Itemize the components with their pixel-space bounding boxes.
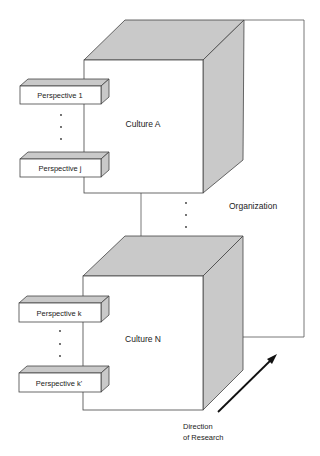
cube-a-label: Culture A	[126, 119, 161, 129]
perspective-k-label: Perspective k	[36, 309, 81, 318]
cube-ellipsis	[185, 202, 187, 228]
perspective-ellipsis-top	[60, 114, 62, 140]
direction-label-line1: Direction	[183, 422, 213, 431]
perspective-j-label: Perspective j	[39, 164, 82, 173]
organization-label: Organization	[229, 201, 277, 211]
perspective-1-label: Perspective 1	[37, 91, 82, 100]
perspective-box-k: Perspective k	[19, 296, 109, 322]
perspective-box-j: Perspective j	[20, 152, 109, 177]
direction-label-line2: of Research	[183, 433, 223, 442]
cube-n-label: Culture N	[125, 334, 161, 344]
perspective-box-1: Perspective 1	[20, 79, 109, 104]
research-diagram: Culture A Culture N Perspective 1 Perspe…	[0, 0, 320, 456]
organization-bracket	[243, 20, 304, 337]
perspective-k-prime-label: Perspective k'	[36, 379, 83, 388]
perspective-box-k-prime: Perspective k'	[19, 366, 109, 392]
perspective-ellipsis-bottom	[59, 330, 61, 357]
